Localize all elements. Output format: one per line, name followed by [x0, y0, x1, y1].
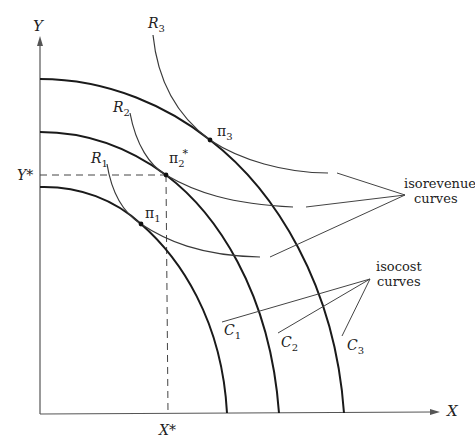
- x-star-label: X*: [158, 422, 176, 438]
- isocost-annotation-line1: isocost: [376, 259, 422, 274]
- isocost-isorevenue-diagram: Y X Y* X* R3 R2 R1 π3 π2* π1 C1 C2 C3 is…: [0, 0, 475, 445]
- x-star-guide: [166, 175, 168, 413]
- isocost-curves: [40, 79, 344, 413]
- r3-label: R3: [147, 15, 165, 34]
- c1-label: C1: [224, 322, 241, 341]
- isocost-curve-c3: [40, 79, 344, 413]
- isocost-curve-c1: [40, 187, 227, 413]
- labels: Y X Y* X* R3 R2 R1 π3 π2* π1 C1 C2 C3 is…: [17, 15, 475, 438]
- point-pi1: [139, 222, 144, 227]
- x-axis-label: X: [446, 402, 459, 420]
- isorevenue-curve-r2: [130, 113, 293, 207]
- axes: [37, 36, 440, 415]
- point-pi3: [208, 138, 213, 143]
- x-axis: [40, 412, 432, 414]
- c2-label: C2: [281, 334, 298, 353]
- isocost-annotation-line2: curves: [377, 274, 421, 289]
- isorevenue-annotation-line1: isorevenue: [404, 176, 475, 191]
- isocost-leaders: [222, 279, 370, 336]
- r2-label: R2: [112, 99, 130, 118]
- y-axis-label: Y: [33, 17, 45, 35]
- pi1-label: π1: [145, 205, 161, 224]
- point-pi2-star: [164, 173, 169, 178]
- isorevenue-curve-r1: [107, 164, 260, 257]
- r1-label: R1: [90, 150, 108, 169]
- isorevenue-annotation-line2: curves: [414, 191, 458, 206]
- pi3-label: π3: [217, 123, 233, 142]
- x-axis-arrow-icon: [430, 409, 440, 415]
- c3-label: C3: [347, 337, 364, 356]
- isorevenue-leaders: [270, 173, 405, 257]
- isocost-curve-c2: [40, 132, 279, 413]
- pi2-star-label: π2*: [169, 147, 189, 169]
- y-axis-arrow-icon: [37, 36, 43, 46]
- isorevenue-curve-r3: [153, 35, 328, 173]
- y-star-label: Y*: [17, 167, 33, 183]
